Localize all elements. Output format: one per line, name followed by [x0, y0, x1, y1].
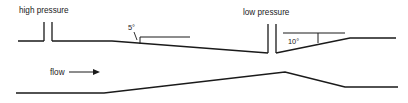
diagram-canvas: high pressure low pressure 5° 10° flow: [0, 0, 408, 103]
upper-wall-upstream: [18, 41, 268, 53]
upstream-angle-label: 5°: [128, 23, 135, 32]
downstream-angle-label: 10°: [288, 37, 299, 46]
high-pressure-label: high pressure: [19, 6, 69, 15]
lower-wall: [16, 72, 398, 93]
duct-cross-section-diagram: high pressure low pressure 5° 10° flow: [0, 0, 408, 103]
upstream-angle-leader: [134, 32, 137, 40]
flow-arrow-head-icon: [93, 69, 100, 75]
low-pressure-label: low pressure: [243, 8, 290, 17]
flow-label: flow: [50, 68, 65, 77]
